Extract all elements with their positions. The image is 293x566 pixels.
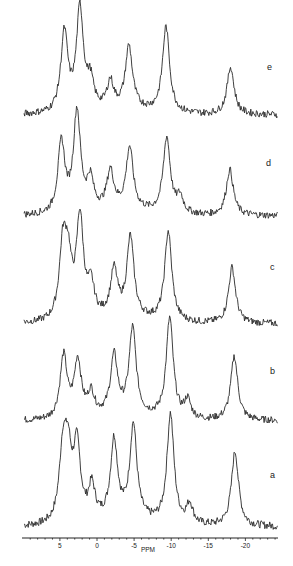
spectra-plot: abcde 50-5-10-15-20 PPM: [0, 0, 293, 566]
x-tick-label: 5: [58, 542, 62, 549]
x-tick-label: -10: [166, 542, 176, 549]
spectrum-trace-d: [24, 106, 277, 218]
nmr-stacked-spectra-figure: abcde 50-5-10-15-20 PPM: [0, 0, 293, 566]
x-tick-label: -20: [241, 542, 251, 549]
trace-label-e: e: [267, 62, 272, 72]
ppm-axis: 50-5-10-15-20 PPM: [22, 538, 278, 553]
spectrum-traces: [24, 0, 277, 529]
trace-labels: abcde: [266, 62, 275, 480]
spectrum-trace-b: [24, 316, 277, 423]
trace-label-c: c: [270, 262, 275, 272]
spectrum-trace-e: [24, 0, 277, 118]
x-tick-label: 0: [95, 542, 99, 549]
trace-label-d: d: [266, 158, 271, 168]
trace-label-a: a: [270, 470, 275, 480]
x-tick-label: -15: [204, 542, 214, 549]
spectrum-trace-c: [24, 209, 277, 326]
x-tick-label: -5: [131, 542, 137, 549]
trace-label-b: b: [270, 366, 275, 376]
spectrum-trace-a: [24, 411, 277, 529]
x-axis-label: PPM: [141, 546, 155, 553]
